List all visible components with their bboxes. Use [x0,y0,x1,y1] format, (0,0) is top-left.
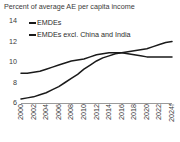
x-axis: 2000200220042006200820102012201420162018… [0,104,180,142]
plot-area [21,18,172,103]
y-axis-tick-label: 8 [13,79,17,87]
x-axis-tick-label: 2004 [42,104,50,120]
y-axis-tick-label: 10 [9,58,17,66]
x-axis-tick-label: 2014 [105,104,113,120]
series-lines [21,18,172,103]
x-axis-tick-label: 2000 [17,104,25,120]
series-line-emdes-excl [21,53,172,74]
x-axis-tick-label: 2010 [80,104,88,120]
x-axis-tick-label: 2018 [130,104,138,120]
x-axis-tick-label: 2022 [155,104,163,120]
x-axis-tick-label: 2006 [55,104,63,120]
x-axis-tick-label: 2002 [30,104,38,120]
x-axis-tick-label: 2012 [93,104,101,120]
x-axis-tick-label: 2008 [67,104,75,120]
y-axis-tick-label: 12 [9,38,17,46]
x-axis-tick-label: 2024f [168,104,176,122]
x-axis-tick-label: 2016 [118,104,126,120]
y-axis-tick-label: 14 [9,17,17,25]
chart-container: Percent of average AE per capita income … [0,0,180,142]
chart-title: Percent of average AE per capita income [4,2,135,11]
x-axis-tick-label: 2020 [143,104,151,120]
